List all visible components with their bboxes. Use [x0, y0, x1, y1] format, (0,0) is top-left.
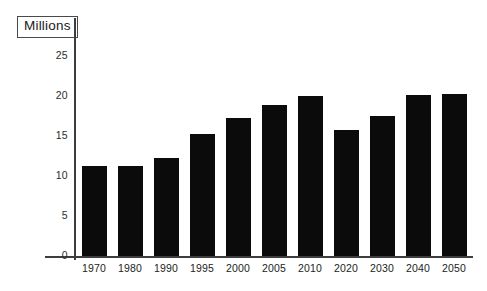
y-tick-label: 5: [40, 209, 68, 221]
bar-column: [118, 18, 143, 256]
bar-column: [334, 18, 359, 256]
bar: [298, 96, 323, 256]
bar: [82, 166, 107, 256]
bar-column: [406, 18, 431, 256]
bar: [370, 116, 395, 256]
bar: [154, 158, 179, 256]
y-axis-tick-labels: 0510152025: [40, 0, 68, 291]
bar-column: [154, 18, 179, 256]
bar-column: [190, 18, 215, 256]
bar-column: [298, 18, 323, 256]
bar-series: [76, 18, 472, 256]
bar-chart: Millions 0510152025 19701980199019952000…: [0, 0, 487, 291]
y-tick-label: 0: [40, 249, 68, 261]
y-tick-label: 25: [40, 49, 68, 61]
bar: [190, 134, 215, 256]
y-tick-label: 20: [40, 89, 68, 101]
bar-column: [442, 18, 467, 256]
bar: [406, 95, 431, 256]
bar: [226, 118, 251, 256]
bar-column: [82, 18, 107, 256]
bar: [334, 130, 359, 256]
y-tick-label: 10: [40, 169, 68, 181]
x-axis-tick-labels: 1970198019901995200020052010202020302040…: [76, 262, 472, 284]
bar-column: [262, 18, 287, 256]
bar: [262, 105, 287, 256]
bar-column: [370, 18, 395, 256]
bar: [118, 166, 143, 256]
bar-column: [226, 18, 251, 256]
x-tick-label: 2050: [431, 262, 477, 274]
y-tick-label: 15: [40, 129, 68, 141]
bar: [442, 94, 467, 256]
x-axis-line: [45, 256, 473, 258]
